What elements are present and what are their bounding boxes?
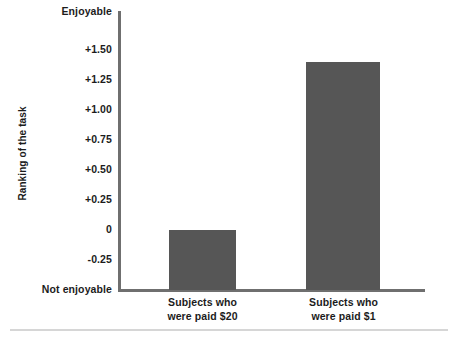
y-tick: +0.25 [0, 193, 112, 207]
y-tick: +0.75 [0, 133, 112, 147]
x-category-label-1-line2: were paid $1 [288, 310, 399, 324]
x-category-label-1-line1: Subjects who [309, 296, 378, 308]
x-category-label-0-line2: were paid $20 [147, 310, 258, 324]
y-tick: 0 [0, 223, 112, 237]
footer-divider [10, 329, 448, 331]
y-tick: +1.25 [0, 73, 112, 87]
y-tick-label: +0.50 [0, 163, 112, 175]
bar-subjects-paid-1 [306, 62, 380, 290]
y-tick-label: +1.25 [0, 73, 112, 85]
y-tick-label: +0.25 [0, 193, 112, 205]
y-tick-label: +1.50 [0, 43, 112, 55]
y-tick-label: 0 [0, 223, 112, 235]
bar-subjects-paid-20 [169, 230, 236, 290]
y-tick: +1.50 [0, 43, 112, 57]
x-category-label-0: Subjects who were paid $20 [147, 296, 258, 323]
y-axis-tick-labels: +1.50 +1.25 +1.00 +0.75 +0.50 +0.25 0 -0… [0, 0, 118, 338]
y-tick-label: +1.00 [0, 103, 112, 115]
y-tick-label: -0.25 [0, 253, 112, 265]
y-tick: -0.25 [0, 253, 112, 267]
y-tick: +1.00 [0, 103, 112, 117]
y-tick-label: +0.75 [0, 133, 112, 145]
y-tick: +0.50 [0, 163, 112, 177]
x-category-label-0-line1: Subjects who [168, 296, 237, 308]
y-axis-line [118, 11, 121, 292]
x-category-label-1: Subjects who were paid $1 [288, 296, 399, 323]
bar-chart-figure: Ranking of the task Enjoyable Not enjoya… [0, 0, 458, 338]
